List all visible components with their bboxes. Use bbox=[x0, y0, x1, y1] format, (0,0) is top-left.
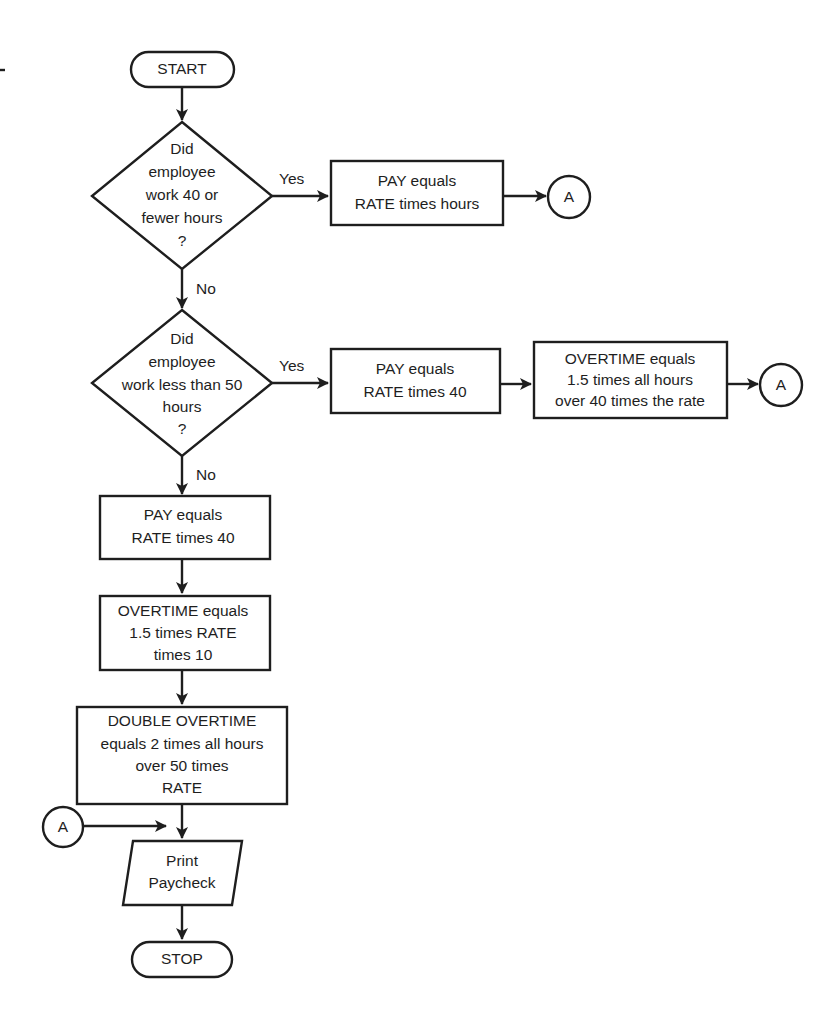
double-overtime-line-1: DOUBLE OVERTIME bbox=[108, 712, 257, 729]
start-label: START bbox=[157, 60, 207, 77]
decision2-line-3: work less than 50 bbox=[121, 376, 243, 393]
pay-40-right-line-2: RATE times 40 bbox=[363, 383, 466, 400]
connector-a1-label: A bbox=[564, 188, 575, 205]
overtime-right-line-1: OVERTIME equals bbox=[565, 350, 696, 367]
print-line-2: Paycheck bbox=[148, 874, 215, 891]
pay-hours-line-1: PAY equals bbox=[378, 172, 457, 189]
connector-a-3: A bbox=[43, 807, 83, 847]
process-pay-rate-40-right: PAY equals RATE times 40 bbox=[331, 349, 500, 413]
decision-40-hours: Did employee work 40 or fewer hours ? bbox=[92, 122, 272, 269]
decision2-yes-label: Yes bbox=[279, 357, 305, 374]
pay-40-left-line-1: PAY equals bbox=[144, 506, 223, 523]
flowchart-canvas: START Did employee work 40 or fewer hour… bbox=[0, 0, 840, 1027]
connector-a2-label: A bbox=[776, 376, 787, 393]
process-double-overtime: DOUBLE OVERTIME equals 2 times all hours… bbox=[77, 707, 287, 804]
decision1-line-2: employee bbox=[148, 163, 215, 180]
double-overtime-line-4: RATE bbox=[162, 779, 202, 796]
decision1-line-5: ? bbox=[178, 232, 187, 249]
overtime-right-line-3: over 40 times the rate bbox=[555, 392, 705, 409]
decision1-line-1: Did bbox=[170, 140, 193, 157]
print-line-1: Print bbox=[166, 852, 199, 869]
overtime-left-line-1: OVERTIME equals bbox=[118, 602, 249, 619]
stop-label: STOP bbox=[161, 950, 203, 967]
double-overtime-line-2: equals 2 times all hours bbox=[101, 735, 264, 752]
payroll-flowchart: START Did employee work 40 or fewer hour… bbox=[0, 0, 840, 1027]
stop-terminal: STOP bbox=[132, 942, 232, 977]
overtime-left-line-2: 1.5 times RATE bbox=[129, 624, 236, 641]
pay-hours-line-2: RATE times hours bbox=[355, 195, 480, 212]
start-terminal: START bbox=[131, 52, 234, 87]
process-overtime-right: OVERTIME equals 1.5 times all hours over… bbox=[534, 342, 727, 418]
overtime-right-line-2: 1.5 times all hours bbox=[567, 371, 693, 388]
io-print-paycheck: Print Paycheck bbox=[123, 841, 242, 905]
pay-40-right-line-1: PAY equals bbox=[376, 360, 455, 377]
decision2-line-1: Did bbox=[170, 330, 193, 347]
decision2-line-2: employee bbox=[148, 353, 215, 370]
decision2-no-label: No bbox=[196, 466, 216, 483]
decision-50-hours: Did employee work less than 50 hours ? bbox=[92, 310, 272, 456]
decision1-line-3: work 40 or bbox=[145, 186, 218, 203]
decision1-yes-label: Yes bbox=[279, 170, 305, 187]
connector-a-1: A bbox=[548, 176, 590, 218]
decision2-line-5: ? bbox=[178, 420, 187, 437]
decision1-no-label: No bbox=[196, 280, 216, 297]
overtime-left-line-3: times 10 bbox=[154, 646, 213, 663]
process-pay-rate-40-left: PAY equals RATE times 40 bbox=[100, 496, 270, 559]
connector-a3-label: A bbox=[58, 818, 69, 835]
double-overtime-line-3: over 50 times bbox=[135, 757, 228, 774]
decision2-line-4: hours bbox=[163, 398, 202, 415]
process-overtime-left: OVERTIME equals 1.5 times RATE times 10 bbox=[100, 596, 270, 670]
connector-a-2: A bbox=[760, 364, 802, 406]
decision1-line-4: fewer hours bbox=[142, 209, 223, 226]
process-pay-rate-hours: PAY equals RATE times hours bbox=[331, 161, 503, 225]
pay-40-left-line-2: RATE times 40 bbox=[131, 529, 234, 546]
